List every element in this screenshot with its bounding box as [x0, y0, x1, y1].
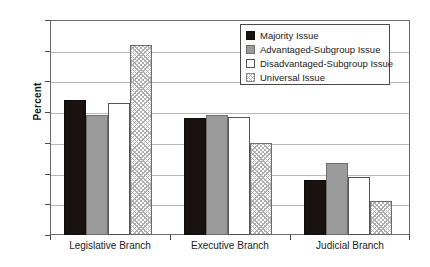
- legend-label-disadvantaged: Disadvantaged-Subgroup Issue: [260, 58, 393, 69]
- bar-executive-majority: [184, 118, 206, 235]
- y-axis-title: Percent: [32, 67, 43, 137]
- bar-judicial-universal: [370, 201, 392, 235]
- bar-executive-universal: [250, 143, 272, 235]
- bar-executive-advantaged: [206, 115, 228, 235]
- legend-item-majority: Majority Issue: [246, 29, 384, 42]
- legend-swatch-advantaged-icon: [246, 45, 255, 54]
- legend-item-universal: Universal Issue: [246, 71, 384, 84]
- bar-legislative-universal: [130, 45, 152, 235]
- legend-swatch-universal-icon: [246, 73, 255, 82]
- legend-label-advantaged: Advantaged-Subgroup Issue: [260, 44, 380, 55]
- legend-swatch-majority-icon: [246, 31, 255, 40]
- legend-label-universal: Universal Issue: [260, 72, 325, 83]
- bar-judicial-majority: [304, 180, 326, 235]
- bar-executive-disadvantaged: [228, 117, 250, 235]
- x-category-label-judicial: Judicial Branch: [285, 240, 415, 251]
- x-category-label-executive: Executive Branch: [165, 240, 295, 251]
- bar-judicial-disadvantaged: [348, 177, 370, 235]
- legend-item-advantaged: Advantaged-Subgroup Issue: [246, 43, 384, 56]
- bar-legislative-disadvantaged: [108, 103, 130, 235]
- bar-chart: Percent 70 60 50 40 30 20 10 0: [0, 0, 430, 267]
- x-category-label-legislative: Legislative Branch: [45, 240, 175, 251]
- legend-swatch-disadvantaged-icon: [246, 59, 255, 68]
- bar-legislative-advantaged: [86, 115, 108, 235]
- legend-item-disadvantaged: Disadvantaged-Subgroup Issue: [246, 57, 384, 70]
- legend-label-majority: Majority Issue: [260, 30, 319, 41]
- bar-legislative-majority: [64, 100, 86, 235]
- legend: Majority Issue Advantaged-Subgroup Issue…: [240, 24, 390, 85]
- bar-judicial-advantaged: [326, 163, 348, 235]
